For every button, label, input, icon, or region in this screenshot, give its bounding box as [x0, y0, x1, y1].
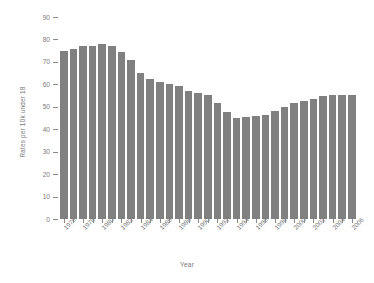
bar — [319, 96, 327, 219]
y-tick-mark — [53, 219, 58, 220]
x-tick-mark — [323, 219, 324, 223]
x-tick-mark — [189, 219, 190, 223]
y-tick-label-wrap: 80 — [30, 36, 50, 43]
y-tick-mark — [53, 197, 58, 198]
x-tick-mark — [150, 219, 151, 223]
y-tick-label: 80 — [30, 36, 50, 43]
bar — [98, 44, 106, 219]
bar — [233, 118, 241, 219]
bar — [79, 46, 87, 219]
bar — [146, 79, 154, 219]
bar — [290, 103, 298, 219]
bar — [262, 115, 270, 219]
bar — [310, 99, 318, 219]
x-tick-mark — [342, 219, 343, 223]
bar — [338, 95, 346, 219]
y-tick-label-wrap: 10 — [30, 193, 50, 200]
y-tick-label-wrap: 90 — [30, 14, 50, 21]
x-tick-mark — [93, 219, 94, 223]
x-tick-mark — [131, 219, 132, 223]
x-tick-mark — [304, 219, 305, 223]
bar — [194, 93, 202, 219]
bar-chart: Rates per 10k under 18 01020304050607080… — [0, 0, 374, 283]
bar — [329, 95, 337, 219]
bar — [156, 82, 164, 219]
y-tick-mark — [53, 152, 58, 153]
y-tick-mark — [53, 129, 58, 130]
bar — [137, 73, 145, 219]
bar — [166, 84, 174, 219]
bar — [175, 86, 183, 219]
bar — [348, 95, 356, 219]
bar — [271, 111, 279, 219]
bar — [89, 46, 97, 219]
x-tick-mark — [208, 219, 209, 223]
y-tick-label-wrap: 0 — [30, 216, 50, 223]
y-tick-label-wrap: 40 — [30, 126, 50, 133]
y-tick-mark — [53, 107, 58, 108]
x-tick-mark — [73, 219, 74, 223]
y-tick-mark — [53, 174, 58, 175]
y-tick-label-wrap: 50 — [30, 103, 50, 110]
bar — [108, 46, 116, 219]
x-tick-mark — [265, 219, 266, 223]
bar — [281, 107, 289, 219]
bar — [70, 49, 78, 219]
y-tick-label-wrap: 30 — [30, 148, 50, 155]
x-axis-title: Year — [0, 261, 374, 268]
bar — [252, 116, 260, 219]
x-tick-mark — [246, 219, 247, 223]
bar — [185, 91, 193, 219]
y-tick-label: 50 — [30, 103, 50, 110]
bar — [242, 117, 250, 219]
x-tick-mark — [169, 219, 170, 223]
y-tick-label: 70 — [30, 58, 50, 65]
bar — [223, 112, 231, 219]
bar — [204, 95, 212, 219]
y-tick-label: 0 — [30, 216, 50, 223]
y-tick-label: 30 — [30, 148, 50, 155]
plot-area — [60, 17, 358, 219]
bar — [127, 60, 135, 219]
x-tick-mark — [112, 219, 113, 223]
y-tick-mark — [53, 84, 58, 85]
bar — [118, 52, 126, 219]
y-tick-label: 40 — [30, 126, 50, 133]
y-tick-label: 90 — [30, 14, 50, 21]
y-tick-label-wrap: 70 — [30, 58, 50, 65]
y-tick-mark — [53, 39, 58, 40]
bar — [60, 51, 68, 219]
y-tick-label: 60 — [30, 81, 50, 88]
y-axis-title: Rates per 10k under 18 — [16, 12, 30, 232]
y-tick-label-wrap: 20 — [30, 171, 50, 178]
y-tick-label: 10 — [30, 193, 50, 200]
y-tick-label-wrap: 60 — [30, 81, 50, 88]
y-tick-label: 20 — [30, 171, 50, 178]
x-tick-mark — [227, 219, 228, 223]
x-tick-mark — [285, 219, 286, 223]
y-tick-mark — [53, 17, 58, 18]
y-tick-mark — [53, 62, 58, 63]
bar — [300, 101, 308, 219]
bar — [214, 103, 222, 219]
